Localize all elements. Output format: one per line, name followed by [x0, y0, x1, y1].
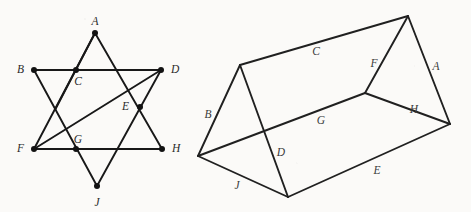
star-vertex-dot-H [159, 146, 165, 152]
prism-edge-label-E: E [372, 164, 380, 176]
prism-edge-label-C: C [312, 45, 320, 57]
star-vertex-label-C: C [74, 75, 82, 87]
star-vertex-dot-B [31, 67, 37, 73]
star-vertex-dot-A [92, 30, 98, 36]
star-vertex-dot-J [94, 183, 100, 189]
star-edge-DF [34, 70, 161, 149]
prism-edge-label-D: D [276, 146, 286, 158]
hexagram-star-figure: ABCDEFGHJ [16, 15, 181, 208]
prism-edge-D [240, 65, 288, 197]
star-vertex-dot-G [73, 146, 79, 152]
star-vertex-label-group: ABCDEFGHJ [16, 15, 181, 208]
prism-edge-label-F: F [369, 57, 378, 69]
figure-sheet: ABCDEFGHJ CABFHGDJE [0, 0, 471, 212]
geometry-figures-canvas: ABCDEFGHJ CABFHGDJE [0, 0, 471, 212]
triangular-prism-figure: CABFHGDJE [198, 16, 450, 197]
prism-edge-H [365, 93, 450, 124]
star-edge-AF [34, 33, 95, 149]
star-vertex-label-B: B [17, 63, 24, 75]
star-vertex-label-H: H [171, 142, 181, 154]
star-vertex-label-A: A [90, 15, 99, 27]
prism-edge-label-A: A [431, 60, 440, 72]
star-edge-DJ [97, 70, 161, 186]
star-edge-group [34, 33, 162, 186]
star-vertex-label-D: D [170, 63, 180, 75]
star-vertex-label-G: G [74, 133, 83, 145]
star-vertex-label-E: E [121, 100, 129, 112]
star-vertex-dot-C [73, 67, 79, 73]
prism-edge-label-H: H [409, 103, 419, 115]
prism-edge-label-J: J [234, 179, 240, 191]
star-vertex-dot-D [158, 67, 164, 73]
star-vertex-dot-E [137, 104, 143, 110]
star-vertex-label-J: J [94, 196, 100, 208]
star-vertex-dot-F [31, 146, 37, 152]
prism-edge-label-G: G [317, 114, 326, 126]
prism-edge-label-B: B [204, 108, 211, 120]
prism-edge-E [288, 124, 450, 197]
prism-edge-C [240, 16, 408, 65]
star-vertex-label-F: F [16, 142, 25, 154]
